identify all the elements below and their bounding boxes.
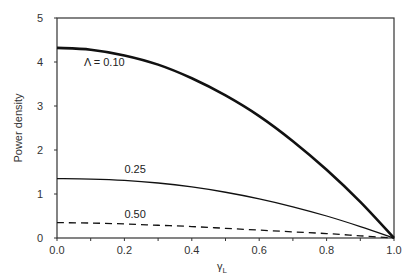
y-axis-label: Power density bbox=[12, 93, 24, 163]
power-density-chart: 012345 0.00.20.40.60.81.0 Λ = 0.100.250.… bbox=[0, 0, 413, 280]
x-tick-label: 1.0 bbox=[386, 244, 401, 256]
series-line-010 bbox=[57, 48, 394, 238]
x-tick-label: 0.8 bbox=[319, 244, 334, 256]
y-tick-label: 1 bbox=[37, 188, 43, 200]
y-tick-label: 2 bbox=[37, 144, 43, 156]
curve-label: Λ = 0.10 bbox=[84, 56, 125, 68]
x-axis-label-subscript: L bbox=[223, 266, 228, 275]
y-tick-label: 3 bbox=[37, 100, 43, 112]
x-tick-label: 0.0 bbox=[49, 244, 64, 256]
curve-label: 0.50 bbox=[124, 208, 145, 220]
series-line-025 bbox=[57, 179, 394, 238]
x-axis-label: γL bbox=[217, 260, 228, 275]
x-tick-label: 0.4 bbox=[184, 244, 199, 256]
series-layer bbox=[57, 48, 394, 238]
x-axis-ticks: 0.00.20.40.60.81.0 bbox=[49, 238, 401, 256]
x-tick-label: 0.2 bbox=[117, 244, 132, 256]
y-tick-label: 0 bbox=[37, 232, 43, 244]
y-axis-ticks: 012345 bbox=[37, 12, 57, 244]
x-tick-label: 0.6 bbox=[252, 244, 267, 256]
y-tick-label: 5 bbox=[37, 12, 43, 24]
curve-labels: Λ = 0.100.250.50 bbox=[84, 56, 146, 219]
curve-label: 0.25 bbox=[124, 163, 145, 175]
series-line-050 bbox=[57, 223, 394, 238]
y-tick-label: 4 bbox=[37, 56, 43, 68]
